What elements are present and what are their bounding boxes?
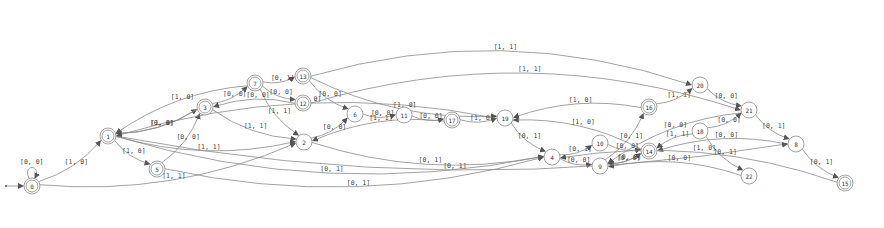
state-node-10: 10: [592, 135, 608, 151]
edge-label: [0, 1]: [320, 165, 343, 173]
state-label: 1: [106, 133, 110, 140]
edge-label: [1, 0]: [65, 158, 88, 166]
state-node-2: 2: [296, 134, 312, 150]
edge-label: [0, 0]: [717, 116, 740, 124]
state-node-7: 7: [247, 75, 263, 91]
state-label: 17: [448, 117, 456, 124]
state-label: 15: [841, 180, 849, 187]
edge-label: [0, 0]: [269, 88, 292, 96]
state-label: 2: [302, 139, 306, 146]
state-label: 16: [645, 104, 653, 111]
state-node-15: 15: [837, 175, 853, 191]
edge-labels-layer: [0, 0][1, 0][1, 1][1, 0][0, 0][1, 0][1, …: [20, 43, 833, 187]
state-label: 19: [501, 115, 509, 122]
edge-label: [0, 0]: [567, 156, 590, 164]
edge-label: [0, 1]: [347, 179, 370, 187]
state-label: 22: [745, 173, 753, 180]
edge-label: [1, 1]: [268, 107, 291, 115]
edge-label: [0, 1]: [620, 132, 643, 140]
edge-label: [1, 1]: [666, 130, 689, 138]
edge-label: [0, 0]: [715, 131, 738, 139]
edge-16-to-19: [514, 103, 641, 117]
edge-label: [0, 0]: [668, 154, 691, 162]
state-node-0: 0: [24, 178, 40, 194]
state-label: 10: [596, 140, 604, 147]
edge-label: [0, 0]: [715, 92, 738, 100]
state-node-18: 18: [692, 123, 708, 139]
state-node-13: 13: [295, 68, 311, 84]
edge-label: [1, 1]: [518, 65, 541, 73]
edge-label: [1, 0]: [571, 118, 594, 126]
state-label: 18: [696, 128, 704, 135]
state-label: 5: [155, 166, 159, 173]
state-node-5: 5: [149, 161, 165, 177]
edge-label: [0, 0]: [664, 121, 687, 129]
edge-label: [0, 1]: [713, 148, 736, 156]
edge-label: [1, 1]: [494, 43, 517, 51]
state-node-9: 9: [592, 158, 608, 174]
start-arrow: [5, 185, 23, 187]
state-node-19: 19: [497, 110, 513, 126]
edge-label: [0, 0]: [318, 90, 341, 98]
automaton-diagram: [0, 0][1, 0][1, 1][1, 0][0, 0][1, 0][1, …: [0, 0, 884, 228]
state-node-12: 12: [295, 95, 311, 111]
state-label: 6: [353, 111, 357, 118]
state-label: 20: [696, 82, 704, 89]
edge-label: [1, 0]: [693, 144, 716, 152]
state-node-21: 21: [741, 102, 757, 118]
edge-label: [0, 1]: [568, 145, 591, 153]
edge-label: [0, 0]: [618, 153, 641, 161]
state-label: 9: [598, 163, 602, 170]
edge-label: [0, 1]: [271, 74, 294, 82]
state-label: 11: [400, 112, 408, 119]
edge-label: [0, 1]: [419, 156, 442, 164]
edge-label: [0, 1]: [762, 122, 785, 130]
state-node-6: 6: [347, 106, 363, 122]
state-label: 21: [745, 107, 753, 114]
edge-label: [0, 0]: [223, 90, 246, 98]
state-node-14: 14: [641, 143, 657, 159]
state-node-17: 17: [444, 112, 460, 128]
state-label: 8: [794, 141, 798, 148]
edge-0-to-0: [27, 168, 36, 179]
edge-label: [0, 0]: [323, 123, 346, 131]
edge-label: [1, 0]: [470, 114, 493, 122]
edge-label: [0, 0]: [246, 91, 269, 99]
edge-label: [0, 0]: [20, 158, 43, 166]
state-label: 14: [645, 148, 653, 155]
edge-label: [1, 0]: [569, 96, 592, 104]
state-node-8: 8: [788, 136, 804, 152]
edge-label: [0, 1]: [810, 158, 833, 166]
edge-label: [1, 0]: [171, 93, 194, 101]
edge-label: [1, 1]: [667, 91, 690, 99]
edge-label: [1, 0]: [151, 119, 174, 127]
state-label: 4: [550, 154, 554, 161]
edge-13-to-20: [311, 51, 691, 85]
state-node-16: 16: [641, 99, 657, 115]
state-node-22: 22: [741, 168, 757, 184]
state-node-20: 20: [692, 77, 708, 93]
edge-label: [0, 0]: [419, 112, 442, 120]
edge-label: [0, 0]: [371, 109, 394, 117]
state-label: 7: [253, 80, 257, 87]
edge-label: [0, 1]: [518, 132, 541, 140]
state-node-4: 4: [544, 149, 560, 165]
state-label: 3: [203, 104, 207, 111]
state-node-11: 11: [396, 107, 412, 123]
edge-label: [0, 0]: [616, 142, 639, 150]
state-label: 0: [30, 183, 34, 190]
edge-label: [1, 1]: [162, 172, 185, 180]
state-label: 13: [299, 73, 307, 80]
edge-label: [0, 0]: [176, 133, 199, 141]
edge-label: [1, 1]: [244, 122, 267, 130]
edge-label: [1, 1]: [197, 143, 220, 151]
state-node-1: 1: [100, 128, 116, 144]
state-label: 12: [299, 100, 307, 107]
state-node-3: 3: [197, 99, 213, 115]
edge-label: [1, 0]: [122, 147, 145, 155]
edge-label: [0, 1]: [443, 162, 466, 170]
